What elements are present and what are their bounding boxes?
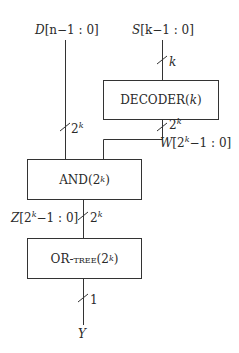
d-input-label: D[n−1 : 0] [35, 23, 99, 37]
decoder-out-width-label: 2k [169, 118, 182, 132]
and-block: AND(2k) [27, 159, 142, 200]
and-out-width-label: 2k [90, 211, 103, 225]
or-tree-block: OR-tree(2k) [27, 238, 142, 279]
w-signal-label: W[2k−1 : 0] [160, 136, 231, 150]
z-signal-label: Z[2k−1 : 0] [11, 211, 78, 225]
y-width-label: 1 [90, 293, 98, 307]
d-width-label: 2k [71, 122, 84, 136]
y-output-label: Y [78, 327, 86, 341]
s-input-label: S[k−1 : 0] [132, 23, 194, 37]
s-width-label: k [169, 55, 176, 69]
w-wire [104, 119, 163, 159]
decoder-block: DECODER(k) [103, 80, 219, 120]
